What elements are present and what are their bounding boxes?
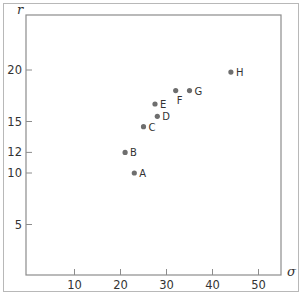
data-point-e: [152, 101, 157, 106]
data-point-c: [141, 124, 146, 129]
point-label-b: B: [130, 147, 137, 158]
point-label-a: A: [139, 168, 146, 179]
x-axis-title: σ: [287, 264, 297, 279]
x-tick-label: 20: [113, 278, 128, 292]
data-points: ABCDEFGH: [123, 67, 244, 179]
x-tick-label: 30: [159, 278, 174, 292]
data-point-a: [132, 170, 137, 175]
y-tick-label: 15: [7, 115, 22, 129]
point-label-g: G: [195, 86, 203, 97]
plot-area-border: [26, 15, 281, 275]
x-tick-label: 50: [251, 278, 266, 292]
axes: 1020304050510121520σr: [7, 2, 297, 292]
scatter-chart: 1020304050510121520σr ABCDEFGH: [0, 0, 304, 296]
x-tick-label: 10: [67, 278, 82, 292]
y-tick-label: 5: [15, 218, 22, 232]
y-tick-label: 20: [7, 63, 22, 77]
data-point-h: [228, 69, 233, 74]
y-tick-label: 10: [7, 166, 22, 180]
y-axis-title: r: [17, 2, 24, 17]
point-label-c: C: [149, 122, 156, 133]
point-label-e: E: [160, 99, 166, 110]
data-point-f: [173, 88, 178, 93]
y-tick-label: 12: [7, 145, 22, 159]
x-tick-label: 40: [205, 278, 220, 292]
data-point-g: [187, 88, 192, 93]
point-label-f: F: [177, 95, 183, 106]
data-point-b: [123, 150, 128, 155]
point-label-d: D: [162, 111, 170, 122]
data-point-d: [155, 114, 160, 119]
point-label-h: H: [236, 67, 244, 78]
